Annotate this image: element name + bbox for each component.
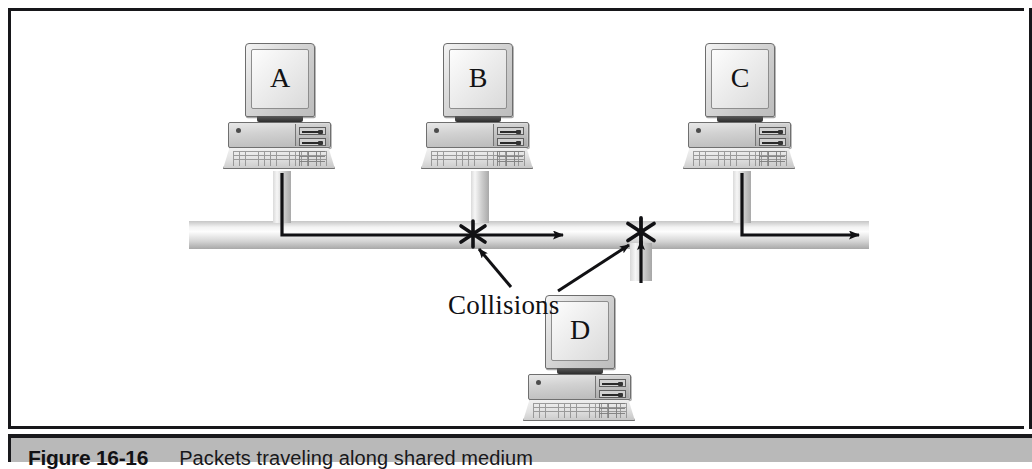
figure-frame: A [8, 8, 1024, 429]
figure-number: Figure 16-16 [28, 447, 148, 468]
leader-to-collision-2 [558, 245, 629, 291]
network-diagram: A [11, 11, 1027, 432]
packet-path-from-a [282, 173, 563, 235]
packet-path-overlay [11, 11, 1027, 432]
collisions-label: Collisions [448, 290, 560, 321]
figure-caption-band: Figure 16-16 Packets traveling along sha… [8, 434, 1032, 462]
collision-star-2 [628, 218, 654, 246]
figure-caption-text: Packets traveling along shared medium [179, 448, 533, 468]
leader-to-collision-1 [479, 249, 511, 287]
packet-path-from-c [742, 173, 859, 235]
